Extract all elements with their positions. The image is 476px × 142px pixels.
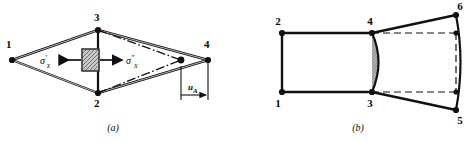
subscript-glyph: x	[46, 61, 51, 70]
right-boundary-curve	[456, 15, 461, 110]
node-label-b-5: 5	[457, 114, 463, 126]
node-label-b-1: 1	[275, 97, 281, 109]
subscript-glyph: A	[192, 87, 198, 95]
trapezoid-outline	[372, 15, 456, 110]
node-label-a-4: 4	[204, 38, 210, 50]
subscript-glyph: x	[133, 61, 138, 70]
dimension-label-ua: uA	[188, 82, 198, 95]
node-label-a-3: 3	[94, 11, 100, 23]
node-label-text: 3	[367, 97, 373, 109]
node-label-text: 6	[457, 0, 463, 12]
subfigure-a: 1 2 3 4 σ′x σ″x	[0, 0, 238, 142]
node-label-text: 5	[457, 114, 463, 126]
caption-b: (b)	[352, 122, 364, 134]
subfigure-b: 2 1 4 3 6 5 (b)	[238, 0, 476, 142]
node-label-a-1: 1	[6, 38, 12, 50]
node-label-text: 1	[6, 38, 12, 50]
node-label-text: 2	[275, 15, 281, 27]
figure-root: 1 2 3 4 σ′x σ″x	[0, 0, 476, 142]
node-label-text: 3	[94, 11, 100, 23]
node-label-b-3: 3	[367, 97, 373, 109]
svg-text:uA: uA	[188, 82, 198, 95]
node-label-b-4: 4	[367, 15, 373, 27]
center-element	[82, 49, 99, 71]
node-label-b-2: 2	[275, 15, 281, 27]
node-label-b-6: 6	[457, 0, 463, 12]
caption-a: (a)	[107, 122, 119, 134]
displaced-node-dot	[178, 57, 185, 64]
node-label-text: 1	[275, 97, 281, 109]
node-label-text: 4	[204, 38, 210, 50]
undeformed-dashed-rectangle	[372, 33, 456, 92]
node-label-text: 4	[367, 15, 373, 27]
node-label-a-2: 2	[94, 97, 100, 109]
rectangle-patch	[282, 33, 372, 92]
node-label-text: 2	[94, 97, 100, 109]
